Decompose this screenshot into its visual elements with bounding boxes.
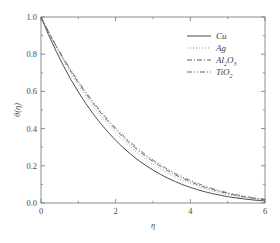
x-tick-label: 6 xyxy=(263,206,267,216)
y-tick-label: 0.8 xyxy=(26,49,37,59)
svg-text:θ(η): θ(η) xyxy=(12,103,22,117)
legend-label-al-o-sub: 3 xyxy=(233,61,237,67)
x-tick-label: 0 xyxy=(39,206,43,216)
figure-container: 0246 0.00.20.40.60.81.0 η θ(η) Cu Ag Al2 xyxy=(0,0,280,243)
temperature-profile-chart: 0246 0.00.20.40.60.81.0 η θ(η) Cu Ag Al2 xyxy=(0,0,280,243)
legend-label-ag: Ag xyxy=(215,43,226,53)
y-label-paren-close: ) xyxy=(12,103,22,107)
legend-label-cu: Cu xyxy=(216,31,227,41)
legend-label-tio-sub: 2 xyxy=(230,73,233,79)
y-tick-label: 0.6 xyxy=(26,86,37,96)
y-tick-label: 0.2 xyxy=(26,161,37,171)
legend-label-tio: TiO xyxy=(216,67,230,77)
x-tick-label: 2 xyxy=(114,206,118,216)
x-axis-label: η xyxy=(151,220,155,230)
y-tick-label: 0.0 xyxy=(26,198,37,208)
y-tick-label: 0.4 xyxy=(26,124,37,134)
x-tick-label: 4 xyxy=(188,206,193,216)
y-tick-label: 1.0 xyxy=(26,12,37,22)
y-axis-label: θ(η) xyxy=(12,103,22,117)
